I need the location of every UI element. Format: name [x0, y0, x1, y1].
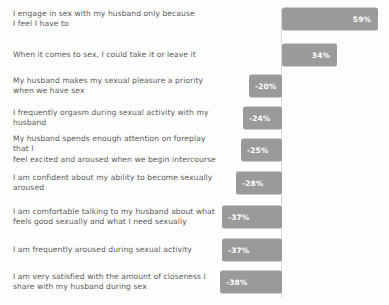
- row-label-line2: when we have sex: [13, 86, 84, 95]
- bar: 34%: [282, 44, 337, 67]
- bar-value-label: 34%: [312, 51, 330, 60]
- chart-row: I am very satisfied with the amount of c…: [0, 267, 389, 297]
- bar-value-label: -25%: [247, 146, 268, 155]
- row-label-line1: I am very satisfied with the amount of c…: [13, 272, 206, 281]
- row-label-line1: I frequently orgasm during sexual activi…: [13, 108, 208, 117]
- row-label-line1: I engage in sex with my husband only bec…: [13, 9, 195, 18]
- row-label: My husband makes my sexual pleasure a pr…: [13, 76, 218, 97]
- row-label-line1: I am confident about my ability to becom…: [13, 173, 212, 182]
- row-label-line2: aroused: [13, 183, 44, 192]
- row-label: I am frequently aroused during sexual ac…: [13, 245, 218, 255]
- bar-value-label: -38%: [226, 278, 247, 287]
- row-label-line1: My husband makes my sexual pleasure a pr…: [13, 76, 203, 85]
- row-label: I am very satisfied with the amount of c…: [13, 272, 218, 293]
- row-label-line2: share with my husband during sex: [13, 282, 147, 291]
- chart-row: I frequently orgasm during sexual activi…: [0, 103, 389, 133]
- chart-rows: I engage in sex with my husband only bec…: [0, 0, 389, 305]
- bar-value-label: -24%: [249, 114, 270, 123]
- row-label-line2: husband: [13, 118, 46, 127]
- row-label: My husband spends enough attention on fo…: [13, 134, 218, 165]
- bar: -37%: [222, 206, 282, 229]
- bar: -38%: [220, 271, 282, 294]
- bar: -24%: [243, 107, 282, 130]
- row-label-line2: feels good sexually and what I need sexu…: [13, 217, 187, 226]
- bar-value-label: 59%: [353, 15, 371, 24]
- row-label-line2: I feel I have to: [13, 19, 69, 28]
- row-label: I am confident about my ability to becom…: [13, 173, 218, 194]
- chart-row: I engage in sex with my husband only bec…: [0, 4, 389, 34]
- bar-value-label: -20%: [255, 82, 276, 91]
- chart-row: My husband makes my sexual pleasure a pr…: [0, 71, 389, 101]
- chart-row: When it comes to sex, I could take it or…: [0, 40, 389, 70]
- row-label-line1: My husband spends enough attention on fo…: [13, 134, 205, 153]
- bar: -37%: [222, 239, 282, 262]
- row-label: I frequently orgasm during sexual activi…: [13, 108, 218, 129]
- chart-row: I am confident about my ability to becom…: [0, 168, 389, 198]
- row-label-line1: I am frequently aroused during sexual ac…: [13, 245, 192, 254]
- bar-value-label: -37%: [228, 246, 249, 255]
- row-label: When it comes to sex, I could take it or…: [13, 50, 218, 60]
- bar: -28%: [236, 172, 282, 195]
- bar-value-label: -37%: [228, 213, 249, 222]
- bar: -20%: [249, 75, 282, 98]
- bar-value-label: -28%: [242, 179, 263, 188]
- row-label: I engage in sex with my husband only bec…: [13, 9, 218, 30]
- row-label-line1: When it comes to sex, I could take it or…: [13, 50, 196, 59]
- row-label-line1: I am comfortable talking to my husband a…: [13, 207, 215, 216]
- row-label: I am comfortable talking to my husband a…: [13, 207, 218, 228]
- bar: -25%: [241, 139, 282, 162]
- chart-row: My husband spends enough attention on fo…: [0, 135, 389, 165]
- row-label-line2: feel excited and aroused when we begin i…: [13, 155, 216, 164]
- chart-row: I am comfortable talking to my husband a…: [0, 202, 389, 232]
- bar: 59%: [282, 8, 378, 31]
- diverging-bar-chart: I engage in sex with my husband only bec…: [0, 0, 389, 305]
- chart-row: I am frequently aroused during sexual ac…: [0, 235, 389, 265]
